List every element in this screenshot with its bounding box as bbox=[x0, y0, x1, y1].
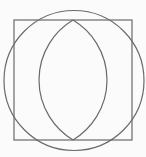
square-shape bbox=[14, 20, 132, 140]
circle-shape bbox=[4, 11, 144, 151]
geometric-diagram bbox=[0, 0, 146, 157]
diagram-svg bbox=[0, 0, 146, 157]
vesica-left-arc bbox=[39, 20, 73, 140]
vesica-right-arc bbox=[73, 20, 107, 140]
